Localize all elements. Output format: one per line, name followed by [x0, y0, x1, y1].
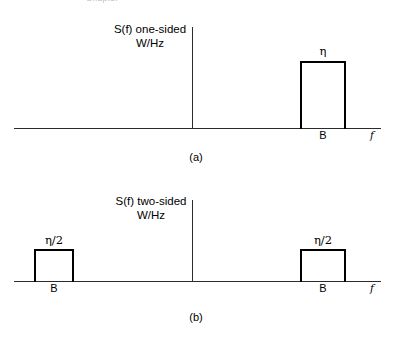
panel-a-yaxis-label-line2: W/Hz	[112, 36, 188, 50]
panel-b-right-pulse-amplitude-label: η/2	[304, 234, 342, 246]
panel-a-yaxis-label: S(f) one-sided W/Hz	[112, 22, 188, 50]
panel-a-pulse-rect	[300, 61, 346, 129]
panel-b-left-bandwidth-label: B	[34, 282, 74, 294]
panel-b-left-pulse-rect	[34, 249, 74, 282]
panel-a-bandwidth-dimension: B	[300, 131, 346, 144]
panel-b-caption: (b)	[166, 311, 226, 323]
panel-b-left-bandwidth-dimension: B	[34, 284, 74, 297]
cut-off-page-header: Chapter	[86, 0, 236, 3]
panel-a-vertical-axis	[192, 27, 193, 129]
panel-a-xaxis-label: f	[370, 129, 374, 141]
panel-b-vertical-axis	[192, 200, 193, 282]
psd-figure: Chapter S(f) one-sided W/Hz f η B (a) S(…	[0, 0, 395, 340]
panel-a-pulse-amplitude-label: η	[306, 45, 340, 57]
panel-a-bandwidth-label: B	[300, 129, 346, 141]
panel-a-yaxis-label-line1: S(f) one-sided	[112, 22, 188, 36]
panel-b-left-pulse-amplitude-label: η/2	[36, 234, 72, 246]
panel-b-xaxis-label: f	[370, 282, 374, 294]
panel-b-yaxis-label: S(f) two-sided W/Hz	[112, 194, 190, 222]
panel-b-right-pulse-rect	[300, 249, 346, 282]
panel-b-right-bandwidth-dimension: B	[300, 284, 346, 297]
panel-b-yaxis-label-line2: W/Hz	[112, 208, 190, 222]
panel-b-yaxis-label-line1: S(f) two-sided	[112, 194, 190, 208]
panel-b-right-bandwidth-label: B	[300, 282, 346, 294]
panel-a-caption: (a)	[166, 151, 226, 163]
